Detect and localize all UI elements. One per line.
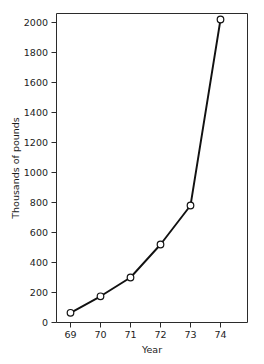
y-tick-label-400: 400 [30, 257, 48, 268]
y-tick-label-800: 800 [30, 197, 48, 208]
y-tick-label-1400: 1400 [24, 107, 48, 118]
data-point-70 [97, 293, 104, 300]
x-tick-label-72: 72 [154, 329, 166, 340]
x-tick-label-73: 73 [184, 329, 196, 340]
y-tick-label-1200: 1200 [24, 137, 48, 148]
y-tick-label-1600: 1600 [24, 77, 48, 88]
x-tick-label-69: 69 [64, 329, 76, 340]
x-tick-label-70: 70 [94, 329, 106, 340]
data-point-71 [127, 274, 134, 281]
line-chart: 0 200 400 600 800 1000 1200 1400 1600 18… [0, 0, 264, 364]
y-axis-title: Thousands of pounds [10, 117, 21, 220]
y-tick-label-200: 200 [30, 287, 48, 298]
y-tick-label-600: 600 [30, 227, 48, 238]
data-point-73 [187, 202, 194, 209]
data-point-69 [67, 310, 74, 317]
y-tick-label-0: 0 [42, 317, 48, 328]
y-tick-label-1000: 1000 [24, 167, 48, 178]
chart-figure: 0 200 400 600 800 1000 1200 1400 1600 18… [0, 0, 264, 364]
data-point-74 [217, 16, 224, 23]
y-tick-label-2000: 2000 [24, 17, 48, 28]
x-tick-label-71: 71 [124, 329, 136, 340]
data-point-72 [157, 241, 164, 248]
y-tick-label-1800: 1800 [24, 47, 48, 58]
x-axis-title: Year [141, 344, 162, 355]
x-tick-label-74: 74 [214, 329, 226, 340]
